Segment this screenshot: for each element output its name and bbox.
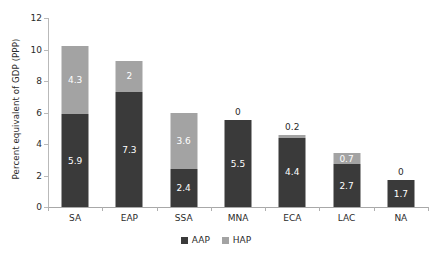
bar-value-label-aap: 7.3 xyxy=(116,145,143,154)
bar-segment-hap[interactable]: 2 xyxy=(116,61,143,93)
bar-value-label-aap: 2.7 xyxy=(333,181,360,190)
legend-item[interactable]: HAP xyxy=(222,236,251,245)
bar-group[interactable]: 3.62.4 xyxy=(157,18,211,207)
bar-stack[interactable]: 4.35.9 xyxy=(62,46,89,207)
bar-value-label-hap: 3.6 xyxy=(170,136,197,145)
legend-swatch-icon xyxy=(181,237,188,244)
bar-segment-aap[interactable]: 5.9 xyxy=(62,114,89,207)
bar-group[interactable]: 0.24.4 xyxy=(265,18,319,207)
bar-group[interactable]: 0.72.7 xyxy=(319,18,373,207)
plot-area: 024681012 4.35.927.33.62.405.50.24.40.72… xyxy=(48,18,428,207)
x-axis-label: LAC xyxy=(319,213,373,223)
bar-stack[interactable]: 1.7 xyxy=(387,180,414,207)
y-tick-label: 10 xyxy=(16,45,42,55)
bar-value-label-aap: 5.5 xyxy=(224,159,251,168)
bar-value-label-hap-outside: 0 xyxy=(235,107,241,117)
x-tick-mark xyxy=(374,207,375,211)
y-tick-label: 0 xyxy=(16,202,42,212)
bar-segment-aap[interactable]: 4.4 xyxy=(279,138,306,207)
x-axis-label: MNA xyxy=(211,213,265,223)
x-axis-line xyxy=(48,207,428,208)
y-tick-label: 8 xyxy=(16,76,42,86)
bar-stack[interactable]: 27.3 xyxy=(116,61,143,207)
stacked-bar-chart: Percent equivalent of GDP (PPP) 02468101… xyxy=(0,0,432,259)
legend: AAPHAP xyxy=(0,236,432,245)
y-tick-label: 12 xyxy=(16,13,42,23)
x-tick-mark xyxy=(211,207,212,211)
bar-stack[interactable]: 4.4 xyxy=(279,135,306,207)
legend-item[interactable]: AAP xyxy=(181,236,210,245)
y-tick-label: 4 xyxy=(16,139,42,149)
bar-segment-aap[interactable]: 2.7 xyxy=(333,164,360,207)
bar-value-label-hap-outside: 0 xyxy=(398,167,404,177)
bar-stack[interactable]: 5.5 xyxy=(224,120,251,207)
x-axis-label: SSA xyxy=(157,213,211,223)
x-axis-label: ECA xyxy=(265,213,319,223)
bar-group[interactable]: 01.7 xyxy=(374,18,428,207)
legend-label: HAP xyxy=(233,236,251,245)
bar-value-label-aap: 4.4 xyxy=(279,168,306,177)
bar-segment-hap[interactable]: 0.7 xyxy=(333,153,360,164)
bar-segment-aap[interactable]: 1.7 xyxy=(387,180,414,207)
bar-value-label-aap: 2.4 xyxy=(170,184,197,193)
bar-value-label-aap: 1.7 xyxy=(387,189,414,198)
bar-group[interactable]: 4.35.9 xyxy=(48,18,102,207)
bar-segment-aap[interactable]: 7.3 xyxy=(116,92,143,207)
x-tick-mark xyxy=(428,207,429,211)
bar-segment-aap[interactable]: 5.5 xyxy=(224,120,251,207)
x-tick-mark xyxy=(319,207,320,211)
bar-segment-hap[interactable]: 4.3 xyxy=(62,46,89,114)
bar-group[interactable]: 27.3 xyxy=(102,18,156,207)
bar-stack[interactable]: 3.62.4 xyxy=(170,113,197,207)
legend-label: AAP xyxy=(192,236,210,245)
bar-value-label-hap: 2 xyxy=(116,72,143,81)
x-axis-label: EAP xyxy=(102,213,156,223)
bar-group[interactable]: 05.5 xyxy=(211,18,265,207)
y-tick-label: 6 xyxy=(16,108,42,118)
bar-stack[interactable]: 0.72.7 xyxy=(333,153,360,207)
legend-swatch-icon xyxy=(222,237,229,244)
bar-value-label-aap: 5.9 xyxy=(62,156,89,165)
y-tick-label: 2 xyxy=(16,171,42,181)
x-tick-mark xyxy=(102,207,103,211)
x-axis-label: SA xyxy=(48,213,102,223)
x-tick-mark xyxy=(265,207,266,211)
bar-value-label-hap-outside: 0.2 xyxy=(285,122,299,132)
x-axis-label: NA xyxy=(374,213,428,223)
bar-value-label-hap: 4.3 xyxy=(62,76,89,85)
x-tick-mark xyxy=(157,207,158,211)
bar-segment-hap[interactable]: 3.6 xyxy=(170,113,197,170)
bar-value-label-hap: 0.7 xyxy=(333,154,360,163)
x-tick-mark xyxy=(48,207,49,211)
bar-segment-aap[interactable]: 2.4 xyxy=(170,169,197,207)
